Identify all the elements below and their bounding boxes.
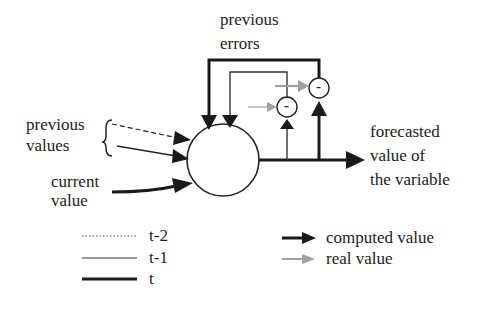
outer-real-value-arrowhead [298, 80, 309, 92]
outer-subtract-symbol: - [316, 77, 321, 96]
current-value-label-line1: current [51, 172, 99, 191]
input-t1-line [117, 146, 176, 156]
input-t2-line [112, 124, 178, 138]
previous-errors-label-line2: errors [220, 34, 260, 53]
inner-real-value-arrowhead [267, 102, 277, 112]
forecast-label-line3: the variable [370, 170, 450, 189]
outer-computed-arrowhead [311, 101, 327, 116]
brace-icon [102, 120, 112, 156]
legend-computed-label: computed value [326, 228, 434, 247]
forecast-label-line2: value of [370, 146, 425, 165]
inner-subtract-symbol: - [284, 96, 289, 115]
previous-values-label-line2: values [26, 136, 69, 155]
forecast-label-line1: forecasted [370, 122, 440, 141]
legend-t1-label: t-1 [149, 248, 168, 267]
current-value-label-line2: value [51, 191, 88, 210]
legend-real-label: real value [326, 249, 393, 268]
neuron-node [187, 124, 259, 196]
input-t2-arrowhead [173, 131, 191, 145]
previous-values-label-line1: previous [26, 115, 85, 134]
inner-computed-arrowhead [280, 119, 294, 129]
legend-t-label: t [149, 269, 154, 288]
legend-t2-label: t-2 [149, 226, 168, 245]
input-t-line [112, 186, 176, 192]
previous-errors-label-line1: previous [220, 10, 279, 29]
input-t-arrowhead [172, 178, 193, 193]
legend-computed-arrowhead [302, 232, 316, 244]
legend-real-arrowhead [302, 254, 315, 264]
output-arrowhead [346, 151, 365, 169]
